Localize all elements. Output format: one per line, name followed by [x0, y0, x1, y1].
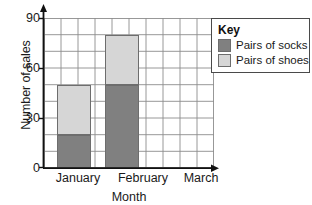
y-tick-label-90: 90	[16, 12, 40, 24]
legend-label-shoes: Pairs of shoes	[236, 54, 309, 67]
bar-january-shoes	[57, 85, 91, 135]
legend-item-socks: Pairs of socks	[218, 39, 304, 52]
plot-area	[44, 18, 214, 168]
legend-swatch-shoes-icon	[218, 54, 231, 67]
legend-swatch-socks-icon	[218, 39, 231, 52]
bar-january-socks	[57, 135, 91, 168]
legend-key-box: Key Pairs of socks Pairs of shoes	[211, 18, 310, 73]
y-tick-label-0: 0	[16, 162, 40, 174]
bar-chart: Number of sales 90 60 30 0	[0, 0, 312, 205]
x-tick-label-march: March	[172, 171, 230, 185]
y-axis-ticks: 90 60 30 0	[8, 0, 40, 205]
y-tick-label-60: 60	[16, 62, 40, 74]
bar-february-socks	[105, 85, 139, 168]
y-tick-label-30: 30	[16, 112, 40, 124]
legend-title: Key	[218, 23, 304, 37]
x-tick-label-february: February	[106, 171, 180, 185]
bar-february-shoes	[105, 35, 139, 85]
legend-item-shoes: Pairs of shoes	[218, 54, 304, 67]
legend-label-socks: Pairs of socks	[236, 39, 308, 52]
x-axis-label: Month	[44, 190, 214, 204]
y-axis-arrow-icon	[40, 4, 47, 12]
x-tick-label-january: January	[44, 171, 112, 185]
